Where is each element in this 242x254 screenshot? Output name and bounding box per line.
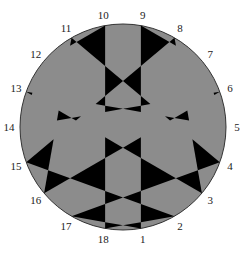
- point-label-3: 3: [208, 194, 214, 206]
- point-label-17: 17: [61, 220, 73, 232]
- point-label-6: 6: [227, 82, 233, 94]
- point-label-11: 11: [61, 22, 72, 34]
- point-label-14: 14: [4, 121, 16, 133]
- point-label-18: 18: [98, 233, 110, 245]
- point-label-16: 16: [30, 194, 42, 206]
- point-label-10: 10: [98, 9, 110, 21]
- point-label-13: 13: [10, 82, 22, 94]
- point-label-4: 4: [227, 160, 233, 172]
- point-label-12: 12: [30, 48, 41, 60]
- point-label-1: 1: [140, 233, 146, 245]
- point-label-8: 8: [177, 22, 183, 34]
- point-label-15: 15: [10, 160, 22, 172]
- point-label-5: 5: [234, 121, 240, 133]
- circle-disk: [20, 24, 226, 230]
- chord-diagram: 123456789101112131415161718: [0, 0, 242, 254]
- point-label-2: 2: [177, 220, 183, 232]
- point-label-7: 7: [208, 48, 214, 60]
- point-label-9: 9: [140, 9, 146, 21]
